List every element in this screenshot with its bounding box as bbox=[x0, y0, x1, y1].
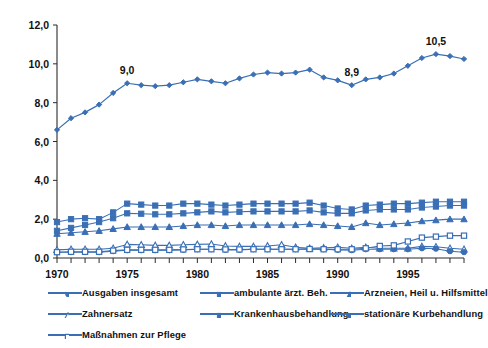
x-axis-label: 1970 bbox=[45, 268, 69, 280]
data-point-marker bbox=[54, 250, 59, 255]
legend-marker-icon bbox=[48, 329, 82, 341]
data-point-marker bbox=[153, 84, 158, 89]
data-point-marker bbox=[265, 201, 270, 206]
data-point-marker bbox=[223, 203, 228, 208]
x-axis-label: 1985 bbox=[256, 268, 280, 280]
data-annotation-label: 8,9 bbox=[344, 66, 359, 78]
legend-item-label: Zahnersatz bbox=[82, 308, 133, 319]
data-point-marker bbox=[307, 67, 312, 72]
legend-item[interactable]: Arzneien, Heil u. Hilfsmittel bbox=[330, 287, 488, 299]
data-annotation-label: 9,0 bbox=[120, 64, 135, 76]
data-point-marker bbox=[82, 249, 87, 254]
data-point-marker bbox=[125, 247, 130, 252]
data-point-marker bbox=[82, 110, 87, 115]
data-point-marker bbox=[461, 56, 466, 61]
legend-marker-glyph bbox=[343, 310, 351, 318]
legend-item[interactable]: Ausgaben insgesamt bbox=[48, 287, 178, 299]
data-point-marker bbox=[419, 55, 424, 60]
data-point-marker bbox=[363, 220, 369, 226]
data-point-marker bbox=[125, 201, 130, 206]
y-axis-label: 2,0 bbox=[34, 213, 49, 225]
data-point-marker bbox=[153, 212, 158, 217]
y-axis-label: 0,0 bbox=[34, 252, 49, 264]
legend-row: ZahnersatzKrankenhausbehandlungstationär… bbox=[0, 303, 485, 324]
data-point-marker bbox=[433, 204, 438, 209]
legend-marker-glyph bbox=[61, 289, 69, 297]
legend-item-label: stationäre Kurbehandlung bbox=[364, 308, 483, 319]
data-point-marker bbox=[265, 247, 270, 252]
data-point-marker bbox=[54, 219, 59, 224]
x-axis-label: 1975 bbox=[115, 268, 139, 280]
data-point-marker bbox=[181, 80, 186, 85]
data-point-marker bbox=[405, 201, 410, 206]
data-point-marker bbox=[405, 239, 410, 244]
data-point-marker bbox=[405, 247, 410, 252]
data-point-marker bbox=[251, 209, 256, 214]
chart-legend: Ausgaben insgesamtambulante ärzt. Beh.Ar… bbox=[0, 282, 485, 348]
legend-item[interactable]: Zahnersatz bbox=[48, 308, 133, 320]
data-annotation-label: 10,5 bbox=[426, 35, 447, 47]
data-point-marker bbox=[54, 228, 59, 233]
legend-item[interactable]: stationäre Kurbehandlung bbox=[330, 308, 483, 320]
data-point-marker bbox=[321, 247, 326, 252]
y-axis-label: 12,0 bbox=[29, 19, 50, 31]
legend-item[interactable]: Krankenhausbehandlung bbox=[200, 308, 349, 320]
data-point-marker bbox=[391, 201, 396, 206]
data-point-marker bbox=[111, 216, 116, 221]
series-line-3 bbox=[57, 219, 464, 234]
data-point-marker bbox=[363, 246, 368, 251]
series-line-1 bbox=[57, 54, 464, 130]
data-point-marker bbox=[405, 63, 410, 68]
data-point-marker bbox=[307, 200, 312, 205]
legend-marker-glyph bbox=[61, 331, 69, 339]
legend-item-label: Ausgaben insgesamt bbox=[82, 287, 178, 298]
legend-item[interactable]: ambulante ärzt. Beh. bbox=[200, 287, 328, 299]
data-point-marker bbox=[209, 247, 214, 252]
data-point-marker bbox=[251, 247, 256, 252]
data-point-marker bbox=[167, 247, 172, 252]
data-point-marker bbox=[391, 207, 396, 212]
x-axis-label: 1990 bbox=[326, 268, 350, 280]
data-point-marker bbox=[461, 250, 466, 255]
data-point-marker bbox=[195, 201, 200, 206]
legend-row: Maßnahmen zur Pflege bbox=[0, 324, 485, 345]
data-point-marker bbox=[181, 201, 186, 206]
legend-item-label: ambulante ärzt. Beh. bbox=[234, 287, 328, 298]
data-point-marker bbox=[349, 83, 354, 88]
data-point-marker bbox=[209, 209, 214, 214]
data-point-marker bbox=[167, 83, 172, 88]
data-point-marker bbox=[447, 249, 452, 254]
legend-row: Ausgaben insgesamtambulante ärzt. Beh.Ar… bbox=[0, 282, 485, 303]
data-point-marker bbox=[433, 234, 438, 239]
data-point-marker bbox=[111, 210, 116, 215]
data-point-marker bbox=[181, 247, 186, 252]
data-point-marker bbox=[349, 247, 354, 252]
legend-marker-glyph bbox=[213, 289, 221, 297]
data-point-marker bbox=[217, 292, 221, 297]
legend-item[interactable]: Maßnahmen zur Pflege bbox=[48, 329, 186, 341]
data-point-marker bbox=[265, 70, 270, 75]
data-point-marker bbox=[349, 211, 354, 216]
data-point-marker bbox=[237, 247, 242, 252]
legend-marker-glyph bbox=[343, 289, 351, 297]
data-point-marker bbox=[97, 219, 102, 224]
series-1 bbox=[54, 52, 466, 133]
data-point-marker bbox=[237, 209, 242, 214]
data-point-marker bbox=[279, 247, 284, 252]
data-point-marker bbox=[419, 205, 424, 210]
data-point-marker bbox=[139, 211, 144, 216]
data-point-marker bbox=[447, 53, 452, 58]
data-point-marker bbox=[68, 225, 73, 230]
data-point-marker bbox=[433, 246, 438, 251]
data-point-marker bbox=[65, 334, 69, 339]
data-point-marker bbox=[279, 201, 284, 206]
data-point-marker bbox=[195, 247, 200, 252]
data-point-marker bbox=[335, 247, 340, 252]
data-point-marker bbox=[223, 210, 228, 215]
data-point-marker bbox=[223, 81, 228, 86]
data-point-marker bbox=[82, 216, 87, 221]
y-axis-label: 4,0 bbox=[34, 174, 49, 186]
data-point-marker bbox=[139, 247, 144, 252]
data-point-marker bbox=[279, 71, 284, 76]
data-point-marker bbox=[65, 292, 69, 297]
